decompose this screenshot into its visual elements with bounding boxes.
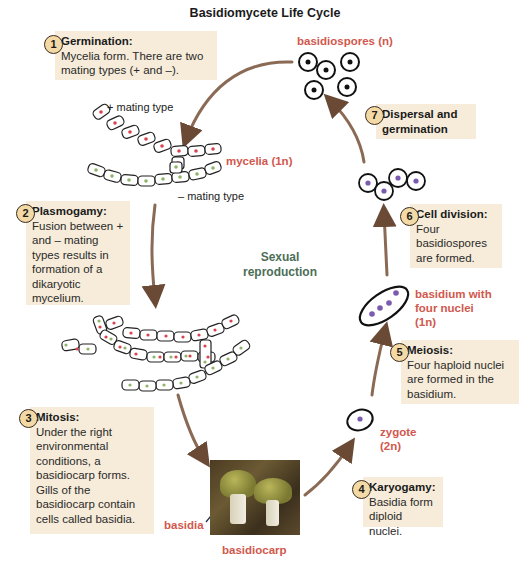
mycelia-label: mycelia (1n)	[226, 154, 292, 168]
step-1-text: Mycelia form. There are two mating types…	[61, 50, 203, 77]
step-5-heading: Meiosis:	[407, 343, 513, 358]
minus-mating-type-label: – mating type	[178, 190, 244, 202]
step-2-badge: 2	[16, 204, 35, 223]
step-1-germination: Germination: Mycelia form. There are two…	[55, 31, 217, 80]
step-6-badge: 6	[400, 207, 419, 226]
arrow-basidium-to-spores	[384, 212, 387, 275]
basidiocarp-photo	[210, 460, 300, 535]
step-3-badge: 3	[19, 409, 38, 428]
step-3-text: Under the right environmental conditions…	[36, 426, 135, 525]
arrow-dikaryon-to-basidiocarp	[178, 395, 205, 460]
basidium-cell	[354, 279, 415, 332]
step-5-meiosis: Meiosis: Four haploid nuclei are formed …	[401, 340, 519, 404]
step-5-badge: 5	[390, 343, 409, 362]
zygote-label: zygote (2n)	[380, 425, 416, 453]
arrow-basidiocarp-to-zygote	[305, 445, 350, 495]
step-4-badge: 4	[352, 480, 371, 499]
step-1-heading: Germination:	[61, 34, 211, 49]
step-2-text: Fusion between + and – mating types resu…	[32, 220, 123, 305]
plus-mating-type-label: + mating type	[107, 101, 173, 113]
step-7-badge: 7	[365, 106, 384, 125]
basidia-label: basidia	[164, 518, 204, 532]
basidiocarp-label: basidiocarp	[222, 543, 287, 557]
step-3-heading: Mitosis:	[36, 410, 148, 425]
step-7-dispersal: Dispersal and germination	[376, 104, 476, 139]
dikaryotic-mycelium	[61, 314, 251, 391]
step-2-heading: Plasmogamy:	[32, 204, 124, 219]
basidiospores-label: basidiospores (n)	[297, 34, 393, 48]
minus-mating-hypha	[87, 161, 222, 186]
step-6-heading: Cell division:	[416, 207, 496, 222]
arrow-zygote-to-basidium	[372, 330, 385, 395]
arrow-spores4-to-spores	[330, 100, 364, 162]
step-7-heading: Dispersal and germination	[382, 107, 470, 136]
step-1-badge: 1	[44, 35, 63, 54]
arrow-mycelia-to-dikaryon	[152, 205, 155, 300]
step-3-mitosis: Mitosis: Under the right environmental c…	[30, 407, 154, 534]
step-4-heading: Karyogamy:	[369, 480, 437, 495]
step-6-text: Four basidiospores are formed.	[416, 223, 487, 264]
step-5-text: Four haploid nuclei are formed in the ba…	[407, 359, 504, 400]
basidium-label: basidium with four nuclei (1n)	[415, 287, 492, 329]
step-6-cell-division: Cell division: Four basidiospores are fo…	[410, 204, 502, 268]
step-4-text: Basidia form diploid nuclei.	[369, 496, 433, 537]
sexual-reproduction-label: Sexual reproduction	[240, 250, 320, 280]
step-4-karyogamy: Karyogamy: Basidia form diploid nuclei.	[363, 477, 443, 527]
step-2-plasmogamy: Plasmogamy: Fusion between + and – matin…	[26, 201, 130, 305]
